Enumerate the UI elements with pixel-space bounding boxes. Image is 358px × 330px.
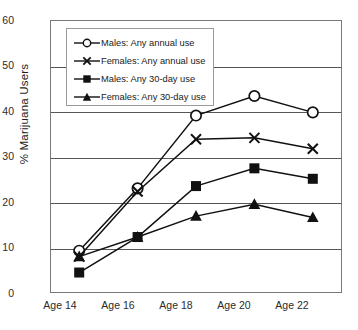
filled-triangle-marker-icon <box>74 90 100 104</box>
data-point-marker <box>249 163 259 173</box>
legend-item-label: Males: Any annual use <box>101 38 195 48</box>
y-axis-tick-label: 10 <box>0 242 14 253</box>
chart-legend: Males: Any annual use Females: Any annua… <box>66 28 214 106</box>
legend-item: Males: Any annual use <box>67 34 213 52</box>
x-axis-tick-label: Age 22 <box>257 299 327 311</box>
data-point-marker <box>191 181 201 191</box>
legend-item-label: Females: Any annual use <box>101 56 205 66</box>
legend-item: Males: Any 30-day use <box>67 70 213 88</box>
data-point-marker <box>249 91 259 101</box>
marijuana-use-line-chart: % Marijuana Users 60 50 40 30 20 10 0 Ag… <box>0 0 358 330</box>
y-axis-tick-label: 20 <box>0 197 14 208</box>
data-point-marker <box>74 268 84 278</box>
series-filled-triangle <box>73 198 318 261</box>
y-axis-tick-label: 0 <box>0 288 14 299</box>
data-point-marker <box>308 174 318 184</box>
y-axis-tick-label: 30 <box>0 151 14 162</box>
data-point-marker <box>191 110 201 120</box>
open-circle-marker-icon <box>74 36 100 50</box>
y-axis-tick-label: 50 <box>0 60 14 71</box>
legend-item: Females: Any annual use <box>67 52 213 70</box>
legend-item-label: Males: Any 30-day use <box>101 74 195 84</box>
y-axis-title: % Marijuana Users <box>18 44 30 184</box>
x-cross-marker-icon <box>74 54 100 68</box>
filled-square-marker-icon <box>74 72 100 86</box>
data-point-marker <box>308 107 318 117</box>
y-axis-tick-label: 60 <box>0 15 14 26</box>
data-point-marker <box>249 198 261 209</box>
series-x-cross <box>74 133 318 262</box>
legend-item: Females: Any 30-day use <box>67 88 213 106</box>
y-axis-tick-label: 40 <box>0 106 14 117</box>
legend-item-label: Females: Any 30-day use <box>101 92 206 102</box>
